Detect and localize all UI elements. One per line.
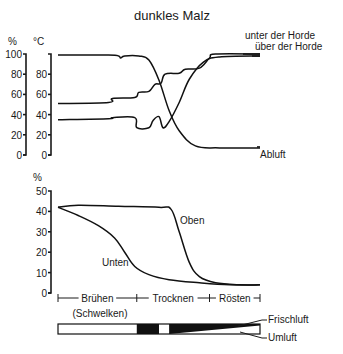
axis-unit-percent-bottom: % [33,172,42,183]
air-bar-segment [58,324,137,334]
tick-label: 20 [36,247,48,258]
tick-label: 0 [41,150,47,161]
tick-label: 40 [11,110,23,121]
top-curves [58,54,260,148]
label-frischluft: Frischluft [268,314,309,325]
series-über-der-horde [58,56,260,129]
label-unter-der-horde: unter der Horde [245,30,315,41]
phase-label: Brühen [81,293,113,304]
phase-ruler: BrühenTrocknenRösten [58,293,260,304]
tick-label: 0 [16,150,22,161]
tick-label: 80 [36,69,48,80]
tick-label: 50 [36,186,48,197]
air-bar [58,324,260,334]
air-bar-segment [159,324,169,334]
series-abluft [58,55,260,148]
phase-label: Rösten [219,293,251,304]
label-umluft: Umluft [268,332,297,343]
tick-label: 0 [41,288,47,299]
top-axis-percent: % 020406080100 [5,36,26,161]
tick-label: 80 [11,69,23,80]
series-oben [58,205,260,285]
top-axis-celsius: °C 020406080 [33,36,51,161]
label-abluft: Abluft [260,149,286,160]
phase-label: Trocknen [152,293,193,304]
axis-unit-percent: % [8,36,17,47]
tick-label: 20 [36,130,48,141]
air-bar-segment [137,324,159,334]
bottom-curves [58,205,260,285]
tick-label: 60 [11,89,23,100]
label-oben: Oben [180,215,204,226]
tick-label: 10 [36,268,48,279]
series-unten [58,207,260,285]
tick-label: 30 [36,227,48,238]
chart-title: dunkles Malz [134,8,210,23]
tick-label: 20 [11,130,23,141]
tick-label: 60 [36,89,48,100]
label-ueber-der-horde: über der Horde [255,41,323,52]
chart-figure: dunkles Malz % 020406080100 °C 020406080… [0,0,343,354]
tick-label: 40 [36,110,48,121]
phase-sub-label: (Schwelken) [72,308,127,319]
axis-unit-celsius: °C [33,36,44,47]
tick-label: 40 [36,206,48,217]
tick-label: 100 [5,49,22,60]
bottom-axis-percent: % 01020304050 [33,172,51,299]
label-unten: Unten [102,257,129,268]
